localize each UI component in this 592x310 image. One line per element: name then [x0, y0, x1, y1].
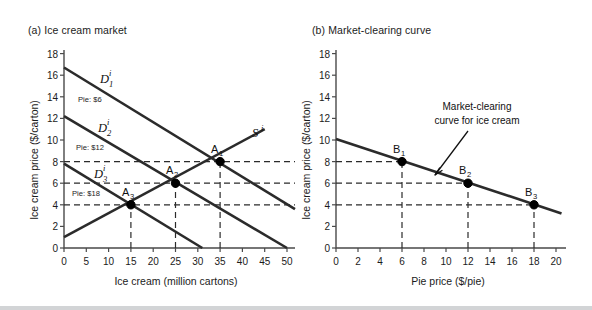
- panel-b-point-b3-label: B 3: [525, 186, 537, 201]
- panel-b-ytick-18: 18: [319, 49, 331, 60]
- panel-b-xtick-10: 10: [440, 256, 452, 267]
- b3-letter: B: [525, 186, 532, 198]
- panel-b-point-b1: [398, 157, 406, 165]
- b1-subscript: 1: [401, 149, 405, 158]
- panel-b-xtick-0: 0: [333, 256, 339, 267]
- panel-b-xtick-4: 4: [377, 256, 383, 267]
- b3-subscript: 3: [533, 192, 537, 201]
- b2-letter: B: [459, 164, 466, 176]
- panel-b-market-clearing-curve: [336, 139, 562, 214]
- panel-b-point-b3: [530, 201, 538, 209]
- panel-b-chart: Ice cream price ($/carton) 0 2 4 6 8 10 …: [0, 0, 592, 310]
- panel-b-xtick-14: 14: [484, 256, 496, 267]
- panel-b-xtick-2: 2: [355, 256, 361, 267]
- b1-letter: B: [393, 143, 400, 155]
- panel-b-ytick-10: 10: [319, 135, 331, 146]
- panel-b-ytick-8: 8: [324, 157, 330, 168]
- panel-b-xtick-12: 12: [462, 256, 474, 267]
- panel-b-y-axis-label: Ice cream price ($/carton): [300, 100, 312, 220]
- panel-b-point-b1-label: B 1: [393, 143, 405, 158]
- panel-b-ytick-2: 2: [324, 221, 330, 232]
- panel-b-ytick-14: 14: [319, 92, 331, 103]
- panel-b-ytick-4: 4: [324, 200, 330, 211]
- figure-container: (a) Ice cream market (b) Market-clearing…: [0, 0, 592, 310]
- panel-b-ytick-0: 0: [324, 243, 330, 254]
- panel-b-point-b2: [464, 179, 472, 187]
- panel-b-xtick-6: 6: [399, 256, 405, 267]
- panel-b-ytick-12: 12: [319, 113, 331, 124]
- panel-b-xtick-20: 20: [550, 256, 562, 267]
- panel-b-ytick-16: 16: [319, 70, 331, 81]
- panel-b-ytick-6: 6: [324, 178, 330, 189]
- panel-b-annotation-line1: Market-clearing: [443, 101, 512, 112]
- panel-b-xtick-16: 16: [506, 256, 518, 267]
- panel-b-xtick-8: 8: [421, 256, 427, 267]
- panel-b-annotation-line2: curve for ice cream: [434, 115, 519, 126]
- panel-b-x-axis-label: Pie price ($/pie): [411, 275, 485, 287]
- b2-subscript: 2: [467, 170, 471, 179]
- panel-b-xtick-18: 18: [528, 256, 540, 267]
- panel-b-point-b2-label: B 2: [459, 164, 471, 179]
